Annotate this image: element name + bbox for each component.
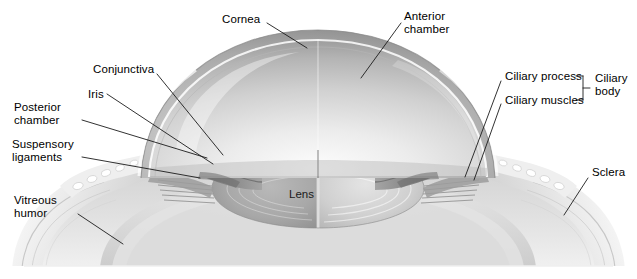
eye-anatomy-figure: Cornea Anteriorchamber Conjunctiva Iris … [0,0,637,279]
leader-posterior-chamber [82,120,207,158]
label-lens: Lens [289,188,314,200]
leader-ciliary-process [465,81,501,177]
leader-iris [107,94,213,164]
label-ciliary-body-line2: body [595,85,620,97]
label-ciliary-body-line1: Ciliary [595,72,628,84]
label-vitreous-humor: Vitreoushumor [14,194,57,220]
label-suspensory-ligaments-line2: ligaments [12,151,62,163]
label-anterior-chamber-line1: Anterior [404,10,445,22]
label-posterior-chamber: Posteriorchamber [14,101,61,127]
label-leader-lines [0,0,637,279]
leader-anterior-chamber [361,23,401,78]
label-posterior-chamber-line1: Posterior [14,101,61,113]
label-ciliary-body: Ciliarybody [595,72,628,98]
label-iris: Iris [88,88,104,101]
label-ciliary-muscles: Ciliary muscles [505,94,584,107]
label-conjunctiva: Conjunctiva [93,63,154,76]
leader-suspensory-ligaments [82,157,200,178]
label-anterior-chamber: Anteriorchamber [404,10,449,36]
label-suspensory-ligaments-line1: Suspensory [12,138,74,150]
label-anterior-chamber-line2: chamber [404,23,449,35]
label-cornea: Cornea [222,13,260,26]
label-ciliary-process: Ciliary process [505,70,582,83]
leader-conjunctiva [157,74,223,155]
leader-sclera [564,178,588,215]
leader-vitreous-humor [78,214,123,244]
label-posterior-chamber-line2: chamber [14,114,59,126]
label-sclera: Sclera [592,166,625,179]
label-vitreous-humor-line1: Vitreous [14,194,57,206]
label-vitreous-humor-line2: humor [14,207,47,219]
leader-cornea [267,23,307,48]
label-suspensory-ligaments: Suspensoryligaments [12,138,74,164]
